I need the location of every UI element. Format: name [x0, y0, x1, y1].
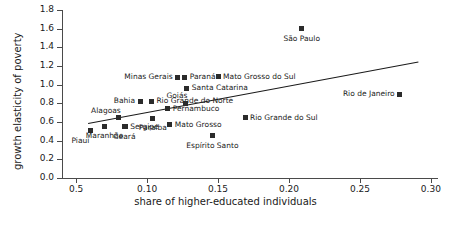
- data-point-marker: [149, 99, 154, 104]
- y-tick-mark: [57, 178, 62, 179]
- y-tick-label: 1.4: [20, 41, 54, 51]
- x-axis-line: [62, 178, 438, 179]
- data-point-marker: [165, 106, 170, 111]
- data-point-marker: [216, 74, 221, 79]
- x-tick-mark: [76, 178, 77, 183]
- x-tick-label: 0.5: [56, 184, 96, 194]
- data-point-marker: [243, 115, 248, 120]
- data-point-marker: [183, 101, 188, 106]
- data-point-label: Alagoas: [91, 107, 121, 115]
- y-tick-label: 1.8: [20, 4, 54, 14]
- y-tick-label: 0.6: [20, 116, 54, 126]
- y-tick-label: 1.0: [20, 79, 54, 89]
- scatter-chart: 0.00.20.40.60.81.01.21.41.61.8 0.50.100.…: [0, 0, 451, 226]
- data-point-label: Goiás: [166, 93, 187, 101]
- data-point-label: Paraná: [190, 73, 216, 81]
- x-tick-mark: [218, 178, 219, 183]
- data-point-label: Espírito Santo: [186, 142, 238, 150]
- y-tick-label: 0.2: [20, 153, 54, 163]
- x-tick-label: 0.15: [198, 184, 238, 194]
- x-tick-mark: [431, 178, 432, 183]
- data-point-label: Rio de Janeiro: [343, 90, 395, 98]
- x-tick-mark: [360, 178, 361, 183]
- data-point-marker: [150, 116, 155, 121]
- data-point-label: Mato Grosso do Sul: [223, 73, 295, 81]
- x-tick-mark: [147, 178, 148, 183]
- y-tick-label: 1.2: [20, 60, 54, 70]
- x-tick-label: 0.30: [411, 184, 451, 194]
- data-point-label: São Paulo: [284, 35, 321, 43]
- y-tick-label: 0.0: [20, 172, 54, 182]
- data-point-label: Minas Gerais: [124, 73, 172, 81]
- y-tick-label: 0.8: [20, 97, 54, 107]
- data-point-label: Bahia: [114, 98, 135, 106]
- data-point-label: Paraíba: [139, 124, 167, 132]
- x-tick-label: 0.20: [269, 184, 309, 194]
- data-point-marker: [123, 124, 128, 129]
- data-point-label: Mato Grosso: [175, 121, 222, 129]
- data-point-marker: [397, 92, 402, 97]
- x-tick-mark: [289, 178, 290, 183]
- data-point-label: Santa Catarina: [192, 85, 248, 93]
- data-point-marker: [182, 75, 187, 80]
- data-point-marker: [210, 133, 215, 138]
- data-point-marker: [175, 75, 180, 80]
- data-point-label: Rio Grande do Sul: [250, 114, 318, 122]
- data-point-label: Pernambuco: [173, 105, 220, 113]
- y-tick-label: 0.4: [20, 135, 54, 145]
- data-point-marker: [116, 115, 121, 120]
- y-tick-label: 1.6: [20, 23, 54, 33]
- x-tick-label: 0.25: [340, 184, 380, 194]
- data-point-marker: [167, 122, 172, 127]
- data-point-marker: [138, 99, 143, 104]
- y-axis-title: growth elasticity of poverty: [12, 32, 23, 170]
- data-point-marker: [299, 26, 304, 31]
- data-point-label: Ceará: [113, 133, 135, 141]
- x-tick-label: 0.10: [127, 184, 167, 194]
- data-point-marker: [102, 124, 107, 129]
- data-point-marker: [184, 86, 189, 91]
- x-axis-title: share of higher-educated individuals: [0, 196, 451, 207]
